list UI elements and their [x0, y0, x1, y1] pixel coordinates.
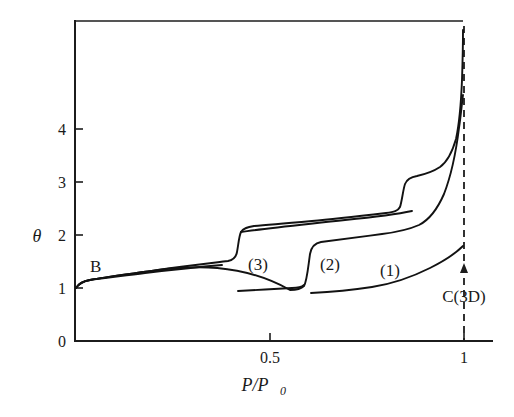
isotherm-figure: 0 1 2 3 4 0.5 1 θ P/P 0 B — [0, 0, 514, 417]
annotation-curve-3: (3) — [248, 255, 268, 274]
annotation-critical-point: C(3D) — [442, 287, 485, 306]
annotation-layer: B (1) (2) (3) C(3D) — [0, 0, 514, 417]
annotation-curve-2: (2) — [320, 255, 340, 274]
annotation-B: B — [90, 257, 101, 276]
annotation-curve-1: (1) — [380, 261, 400, 280]
